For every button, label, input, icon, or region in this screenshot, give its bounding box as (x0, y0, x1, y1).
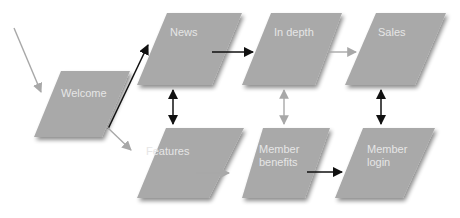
node-in-depth[interactable] (242, 13, 342, 85)
node-sales[interactable] (345, 13, 446, 85)
arrow-welcome-to-features (107, 127, 131, 150)
node-member-login[interactable] (335, 128, 435, 198)
node-features[interactable] (137, 128, 244, 198)
node-welcome[interactable] (34, 71, 130, 137)
node-member-benefits[interactable] (242, 128, 330, 198)
arrow-entry-to-welcome (14, 28, 41, 92)
site-flow-diagram (0, 0, 460, 218)
node-news[interactable] (137, 13, 242, 85)
